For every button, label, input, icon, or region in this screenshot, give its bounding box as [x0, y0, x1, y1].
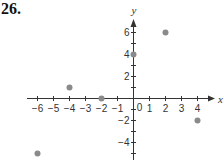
x-tick-label: −1 — [112, 103, 124, 114]
y-axis-arrow-icon — [131, 19, 137, 27]
x-tick-label: 3 — [179, 103, 185, 114]
y-axis-label: y — [131, 4, 137, 16]
x-tick-label: −5 — [48, 103, 60, 114]
scatter-plot: xy−6−5−4−3−2−112340−4−2246 — [0, 0, 224, 166]
x-tick-label: −4 — [64, 103, 76, 114]
y-tick-label: −2 — [118, 115, 130, 126]
y-tick-label: 4 — [124, 49, 130, 60]
data-point — [67, 85, 73, 91]
x-tick-label: 2 — [163, 103, 169, 114]
x-tick-label: −3 — [80, 103, 92, 114]
x-axis-arrow-icon — [208, 96, 215, 102]
x-tick-label: −6 — [32, 103, 44, 114]
data-point — [131, 52, 137, 58]
origin-label: 0 — [137, 102, 143, 113]
data-point — [99, 96, 105, 102]
x-tick-label: 4 — [195, 103, 201, 114]
x-tick-label: −2 — [96, 103, 108, 114]
y-tick-label: −4 — [118, 137, 130, 148]
x-tick-label: 1 — [147, 103, 153, 114]
y-tick-label: 6 — [124, 27, 130, 38]
x-axis-label: x — [217, 93, 223, 105]
data-point — [163, 30, 169, 36]
data-point — [195, 118, 201, 124]
y-tick-label: 2 — [124, 71, 130, 82]
data-point — [35, 151, 41, 157]
